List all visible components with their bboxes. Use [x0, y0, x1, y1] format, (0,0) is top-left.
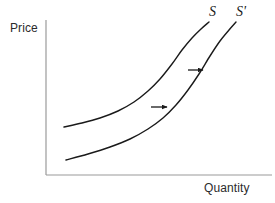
axes-group	[46, 20, 272, 175]
curve-label-s-prime: S'	[236, 4, 246, 20]
curve-label-s: S	[209, 4, 216, 20]
x-axis-label: Quantity	[204, 181, 250, 195]
curves-group	[64, 22, 236, 160]
supply-shift-figure: Price Quantity S S'	[0, 0, 275, 203]
y-axis-label: Price	[10, 21, 38, 35]
arrows-group	[151, 70, 203, 107]
supply-curve-s-prime	[66, 22, 236, 160]
supply-curve-s	[64, 22, 209, 127]
plot-canvas	[0, 0, 275, 203]
